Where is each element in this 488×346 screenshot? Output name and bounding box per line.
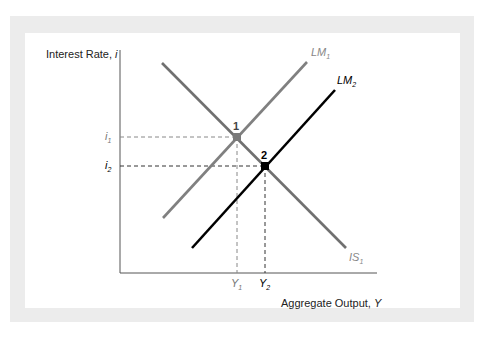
point-1-label: 1 bbox=[233, 120, 239, 132]
y1-tick-label: Y1 bbox=[231, 277, 242, 291]
is1-label: IS1 bbox=[349, 251, 363, 265]
y2-tick-label: Y2 bbox=[259, 277, 270, 291]
lm2-label: LM2 bbox=[337, 74, 356, 88]
equilibrium-point-1 bbox=[233, 133, 241, 141]
lm1-label: LM1 bbox=[311, 46, 330, 60]
x-axis-title: Aggregate Output, Y bbox=[281, 297, 382, 309]
is-lm-chart: 1 2 LM1 LM2 IS1 i1 i2 Y1 Y2 Interest Rat… bbox=[0, 0, 488, 346]
i2-tick-label: i2 bbox=[105, 159, 111, 173]
is1-curve bbox=[162, 63, 346, 248]
i1-tick-label: i1 bbox=[105, 130, 111, 144]
equilibrium-point-2 bbox=[261, 162, 269, 170]
y-axis-title: Interest Rate, i bbox=[46, 48, 118, 60]
point-2-label: 2 bbox=[261, 149, 267, 161]
